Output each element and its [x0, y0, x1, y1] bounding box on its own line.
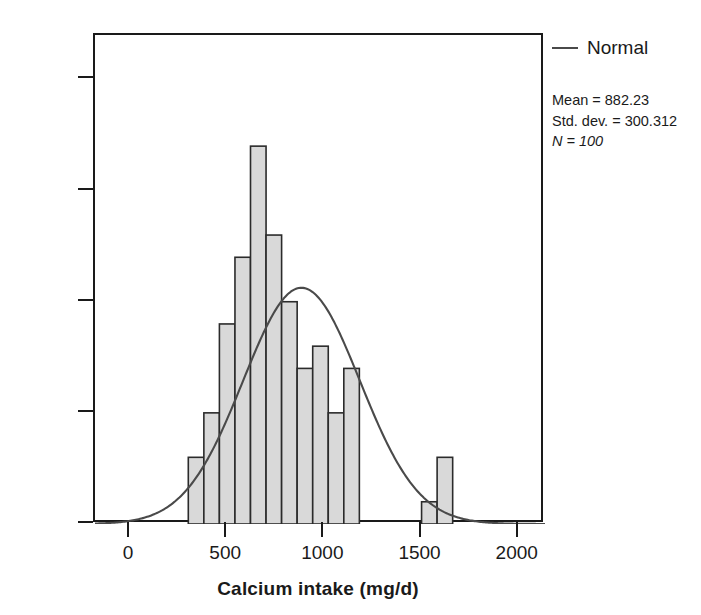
stat-mean: Mean = 882.23: [552, 90, 701, 111]
histogram-bar: [235, 257, 251, 524]
x-tick-mark: [321, 522, 323, 537]
histogram-bar: [188, 457, 204, 524]
histogram-bar: [328, 413, 344, 524]
histogram-bar: [313, 346, 329, 524]
legend-entry-normal: Normal: [552, 38, 697, 57]
x-tick-label: 500: [180, 543, 270, 562]
y-tick-mark: [78, 299, 93, 301]
x-tick-label: 0: [83, 543, 173, 562]
histogram-bar: [422, 502, 438, 524]
stat-std-dev: Std. dev. = 300.312: [552, 111, 701, 132]
plot-canvas: [95, 35, 545, 524]
histogram-bar: [266, 235, 282, 524]
histogram-bars: [188, 146, 452, 524]
x-tick-label: 2000: [472, 543, 562, 562]
x-tick-mark: [127, 522, 129, 537]
line-swatch-icon: [552, 47, 578, 49]
x-tick-label: 1500: [375, 543, 465, 562]
y-tick-mark: [78, 410, 93, 412]
histogram-bar: [282, 302, 298, 524]
legend: Normal: [552, 38, 697, 57]
x-tick-mark: [516, 522, 518, 537]
histogram-bar: [251, 146, 267, 524]
histogram-bar: [344, 368, 360, 524]
legend-label-normal: Normal: [587, 38, 648, 57]
x-tick-mark: [224, 522, 226, 537]
stats-annotation: Mean = 882.23 Std. dev. = 300.312 N = 10…: [552, 90, 701, 152]
y-tick-mark: [78, 521, 93, 523]
histogram-bar: [297, 368, 313, 524]
histogram-bar: [219, 324, 235, 524]
plot-area: [93, 33, 543, 522]
y-tick-mark: [78, 76, 93, 78]
x-axis-title: Calcium intake (mg/d): [93, 578, 543, 600]
y-tick-mark: [78, 188, 93, 190]
histogram-bar: [204, 413, 220, 524]
stat-n: N = 100: [552, 131, 701, 152]
x-tick-mark: [419, 522, 421, 537]
histogram-figure: Frequency 05101520 0500100015002000 Calc…: [0, 0, 701, 615]
x-tick-label: 1000: [277, 543, 367, 562]
